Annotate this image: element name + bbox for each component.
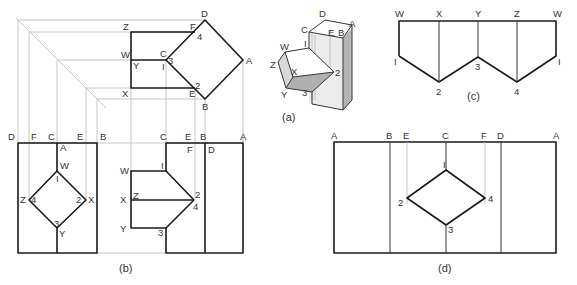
development-c xyxy=(399,21,556,82)
svg-text:3: 3 xyxy=(475,61,480,72)
svg-text:I: I xyxy=(304,38,307,49)
svg-text:E: E xyxy=(403,130,409,141)
svg-text:W: W xyxy=(120,165,129,176)
svg-text:E: E xyxy=(328,27,334,38)
label-D: D xyxy=(201,8,208,19)
svg-text:E: E xyxy=(77,131,83,142)
front-view-labels: C E B A F D W I X Z 2 4 Y 3 xyxy=(120,131,247,238)
svg-text:D: D xyxy=(208,144,215,155)
front-view xyxy=(131,143,243,253)
svg-text:Z: Z xyxy=(270,59,276,70)
label-X: X xyxy=(122,88,129,99)
svg-text:I: I xyxy=(394,56,397,67)
svg-text:B: B xyxy=(338,27,344,38)
label-3: 3 xyxy=(168,55,173,66)
label-1: I xyxy=(162,61,165,72)
svg-text:4: 4 xyxy=(514,86,519,97)
svg-text:3: 3 xyxy=(448,224,453,235)
label-Z: Z xyxy=(123,21,129,32)
label-C: C xyxy=(160,48,167,59)
svg-text:X: X xyxy=(436,8,443,19)
svg-text:X: X xyxy=(88,194,95,205)
svg-text:Z: Z xyxy=(133,190,139,201)
svg-text:2: 2 xyxy=(436,86,441,97)
caption-c: (c) xyxy=(467,90,480,102)
svg-text:2: 2 xyxy=(195,189,200,200)
svg-text:D: D xyxy=(319,8,326,19)
svg-text:Y: Y xyxy=(281,89,288,100)
caption-a: (a) xyxy=(282,111,295,123)
svg-text:2: 2 xyxy=(398,197,403,208)
svg-text:I: I xyxy=(443,159,446,170)
orthographic-diagram: D F Z W C Y I 3 4 A X E 2 B D F C E B A … xyxy=(0,0,577,285)
label-4: 4 xyxy=(197,31,202,42)
svg-text:W: W xyxy=(553,8,562,19)
svg-text:I: I xyxy=(161,160,164,171)
svg-text:E: E xyxy=(185,131,191,142)
svg-text:W: W xyxy=(60,160,69,171)
svg-text:A: A xyxy=(240,131,247,142)
svg-text:W: W xyxy=(395,8,404,19)
svg-text:Y: Y xyxy=(59,228,66,239)
svg-text:2: 2 xyxy=(76,194,81,205)
svg-text:4: 4 xyxy=(193,201,198,212)
svg-text:A: A xyxy=(60,142,67,153)
svg-text:F: F xyxy=(481,130,487,141)
side-view xyxy=(18,143,97,253)
caption-d: (d) xyxy=(438,262,451,274)
svg-text:4: 4 xyxy=(488,193,493,204)
svg-text:B: B xyxy=(200,131,206,142)
label-Y: Y xyxy=(133,60,140,71)
svg-text:D: D xyxy=(8,131,15,142)
svg-text:C: C xyxy=(48,131,55,142)
label-W: W xyxy=(121,49,130,60)
svg-text:B: B xyxy=(386,130,392,141)
svg-text:C: C xyxy=(301,24,308,35)
svg-text:I: I xyxy=(56,173,59,184)
svg-text:X: X xyxy=(120,194,127,205)
svg-text:I: I xyxy=(558,56,561,67)
svg-text:A: A xyxy=(331,130,338,141)
label-F: F xyxy=(190,21,196,32)
svg-text:D: D xyxy=(497,130,504,141)
svg-text:4: 4 xyxy=(31,194,36,205)
captions: (a) (b) (c) (d) xyxy=(119,90,480,274)
svg-text:F: F xyxy=(31,131,37,142)
svg-text:2: 2 xyxy=(335,67,340,78)
svg-text:A: A xyxy=(349,18,356,29)
caption-b: (b) xyxy=(119,262,132,274)
label-2: 2 xyxy=(195,80,200,91)
svg-text:X: X xyxy=(291,66,298,77)
svg-text:C: C xyxy=(160,131,167,142)
svg-text:B: B xyxy=(100,131,106,142)
svg-text:Y: Y xyxy=(475,8,482,19)
svg-text:3: 3 xyxy=(302,87,307,98)
top-view xyxy=(131,20,243,99)
svg-text:Z: Z xyxy=(20,194,26,205)
label-A: A xyxy=(246,55,253,66)
svg-text:C: C xyxy=(442,130,449,141)
svg-text:W: W xyxy=(280,41,289,52)
svg-text:Z: Z xyxy=(514,8,520,19)
svg-text:F: F xyxy=(187,144,193,155)
label-B: B xyxy=(202,101,208,112)
svg-text:A: A xyxy=(553,130,560,141)
svg-text:3: 3 xyxy=(158,227,163,238)
svg-text:Y: Y xyxy=(120,223,127,234)
